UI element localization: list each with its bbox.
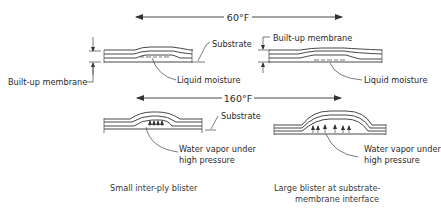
builtup-membrane-label-left: Built-up membrane — [8, 77, 87, 87]
vapor-label-right-line1: Water vapor under — [364, 144, 441, 154]
vapor-pressure-arrows — [313, 125, 349, 133]
temperature-60f-indicator: 60°F — [136, 12, 342, 23]
substrate-label-bottom: Substrate — [221, 111, 261, 121]
vapor-label-right-line2: high pressure — [364, 155, 420, 165]
vapor-label-left-line2: high pressure — [179, 155, 235, 165]
temperature-label-bottom: 160°F — [224, 93, 252, 104]
vapor-pressure-arrows — [150, 121, 162, 126]
substrate-label-top: Substrate — [212, 39, 252, 49]
liquid-moisture-label-left: Liquid moisture — [177, 75, 240, 85]
vapor-label-left-line1: Water vapor under — [179, 144, 256, 154]
top-right-membrane — [258, 37, 382, 80]
builtup-membrane-label-right: Built-up membrane — [273, 33, 352, 43]
caption-large-blister-line1: Large blister at substrate- — [274, 183, 380, 193]
temperature-160f-indicator: 160°F — [137, 93, 341, 104]
caption-small-blister: Small inter-ply blister — [110, 183, 198, 193]
caption-large-blister-line2: membrane interface — [295, 194, 379, 204]
temperature-label-top: 60°F — [227, 12, 249, 23]
blister-diagram: 60°F Substrate Built-up membrane Liquid … — [0, 0, 441, 214]
liquid-moisture-label-right: Liquid moisture — [364, 75, 427, 85]
